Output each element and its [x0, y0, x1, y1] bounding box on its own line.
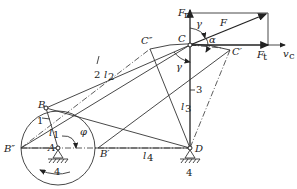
- label-gamma-top: γ: [196, 18, 202, 29]
- label-alpha: α: [209, 34, 216, 45]
- label-A: A: [47, 142, 55, 153]
- svg-text:l: l: [143, 150, 146, 161]
- svg-text:c: c: [289, 50, 295, 61]
- svg-text:n: n: [184, 9, 191, 20]
- label-B: B: [37, 99, 45, 110]
- line-Bdd-C: [21, 45, 190, 148]
- label-B-double: B″: [3, 143, 15, 154]
- linkage-diagram: B A B″ B′ C C′ C″ D 1 2 3 4 4 l 1 l 2 l …: [0, 0, 297, 189]
- label-D: D: [194, 143, 203, 154]
- ground-number-D: 4: [186, 167, 192, 178]
- label-l3: l 3: [181, 101, 191, 114]
- label-C-double: C″: [141, 35, 153, 46]
- label-F: F: [219, 17, 228, 28]
- svg-text:2: 2: [108, 71, 114, 82]
- label-vc: v c: [283, 48, 295, 61]
- label-C-prime: C′: [232, 46, 243, 57]
- svg-text:4: 4: [147, 152, 153, 163]
- label-l2: l 2: [104, 69, 114, 82]
- label-l4: l 4: [143, 150, 153, 163]
- svg-text:3: 3: [185, 103, 191, 114]
- label-B-prime: B′: [99, 148, 110, 159]
- gamma-top-arc: [190, 28, 205, 38]
- link-number-1: 1: [37, 115, 43, 126]
- svg-text:l: l: [104, 69, 107, 80]
- label-C: C: [178, 33, 186, 44]
- line-Cdd-D: [150, 49, 190, 148]
- ground-number-A: 4: [54, 166, 60, 177]
- phi-arc: [62, 136, 76, 148]
- label-phi: φ: [80, 126, 87, 137]
- svg-text:t: t: [263, 51, 267, 62]
- link-number-3: 3: [196, 84, 202, 95]
- label-l1: l 1: [49, 127, 59, 140]
- svg-text:1: 1: [53, 129, 59, 140]
- link-number-2: 2: [94, 69, 100, 80]
- svg-text:l: l: [49, 127, 52, 138]
- label-gamma-bottom: γ: [176, 61, 182, 72]
- joint-C: [188, 43, 192, 47]
- label-Ft: F t: [256, 49, 267, 62]
- label-Fn: F n: [177, 7, 191, 20]
- svg-text:l: l: [181, 101, 184, 112]
- diagonal-BD: [46, 108, 190, 148]
- coupler-link-l2: [46, 45, 190, 108]
